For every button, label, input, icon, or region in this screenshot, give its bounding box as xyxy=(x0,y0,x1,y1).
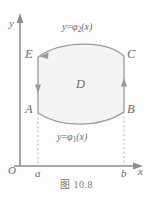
figure-container: y x O a b A B C E D y=φ2(x) y=φ1(x) 图 10… xyxy=(0,0,153,198)
region-label-D: D xyxy=(76,78,85,91)
point-label-B: B xyxy=(127,103,135,116)
y-axis-arrowhead xyxy=(17,13,24,23)
origin-label: O xyxy=(8,165,16,176)
lower-eq-argument: (x) xyxy=(76,131,87,142)
figure-caption: 图 10.8 xyxy=(0,176,153,191)
point-label-E: E xyxy=(25,48,33,61)
y-axis-label: y xyxy=(9,18,14,29)
upper-curve-equation-label: y=φ2(x) xyxy=(62,22,92,34)
point-label-C: C xyxy=(127,48,135,61)
point-label-A: A xyxy=(25,103,33,116)
upper-eq-argument: (x) xyxy=(81,21,92,32)
lower-curve-equation-label: y=φ1(x) xyxy=(57,132,87,144)
